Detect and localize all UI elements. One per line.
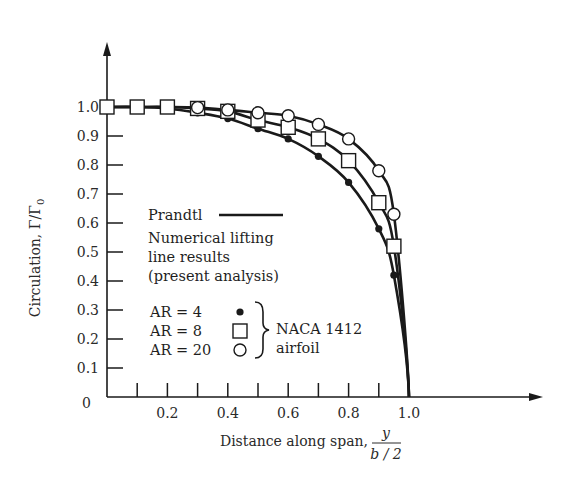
x-tick-label: 0.6 — [277, 405, 299, 421]
x-tick-label: 0.2 — [156, 405, 178, 421]
y-tick-label: 0.8 — [77, 157, 99, 173]
y-axis-arrow-icon — [103, 42, 111, 56]
x-axis-title: Distance along span, — [220, 433, 368, 449]
legend-numerical-text: (present analysis) — [148, 268, 279, 284]
open-circle-marker — [192, 102, 204, 114]
open-square-marker — [130, 100, 144, 114]
open-square-marker — [100, 100, 114, 114]
y-tick-label: 0.6 — [77, 215, 99, 231]
legend-airfoil-text: airfoil — [276, 340, 320, 356]
open-circle-marker — [388, 208, 400, 220]
axis-ticks: 0.20.40.60.81.000.10.20.30.40.50.60.70.8… — [77, 99, 420, 421]
y-tick-label: 0.9 — [77, 128, 99, 144]
open-square-marker — [311, 132, 325, 146]
y-tick-label: 1.0 — [77, 99, 99, 115]
x-axis-title-numerator: y — [381, 425, 391, 441]
open-square-marker — [160, 100, 174, 114]
open-circle-marker — [312, 118, 324, 130]
open-square-marker — [342, 154, 356, 168]
circulation-chart: 0.20.40.60.81.000.10.20.30.40.50.60.70.8… — [0, 0, 573, 485]
legend-entry-label: AR = 8 — [149, 323, 202, 339]
legend-brace-icon — [255, 302, 269, 358]
open-square-marker — [372, 196, 386, 210]
x-tick-label: 0.8 — [337, 405, 359, 421]
y-tick-label: 0.2 — [77, 331, 99, 347]
open-square-marker — [281, 120, 295, 134]
open-square-marker — [387, 239, 401, 253]
filled-circle-marker — [390, 272, 397, 279]
legend-open-square-icon — [233, 324, 247, 338]
y-axis-title: Circulation, Γ/Γ0 — [27, 199, 46, 318]
open-circle-marker — [282, 110, 294, 122]
legend-open-circle-icon — [234, 344, 246, 356]
filled-circle-marker — [375, 225, 382, 232]
x-tick-label: 0.4 — [217, 405, 239, 421]
legend-numerical-text: line results — [148, 249, 230, 265]
open-circle-marker — [373, 165, 385, 177]
legend: PrandtlNumerical liftingline results(pre… — [148, 207, 362, 358]
open-circle-marker — [252, 107, 264, 119]
legend-prandtl-label: Prandtl — [148, 207, 203, 223]
filled-circle-marker — [345, 179, 352, 186]
open-circle-marker — [343, 133, 355, 145]
x-axis-title-denominator: b / 2 — [370, 446, 402, 462]
y-tick-label: 0 — [82, 395, 91, 411]
legend-numerical-text: Numerical lifting — [148, 230, 274, 246]
x-tick-label: 1.0 — [398, 405, 420, 421]
y-tick-label: 0.3 — [77, 302, 99, 318]
legend-filled-circle-icon — [236, 308, 243, 315]
y-tick-label: 0.1 — [77, 360, 99, 376]
legend-airfoil-text: NACA 1412 — [276, 321, 362, 337]
open-circle-marker — [222, 104, 234, 116]
x-axis-arrow-icon — [529, 393, 543, 401]
data-series — [100, 100, 409, 397]
markers-ar20 — [192, 102, 400, 221]
filled-circle-marker — [315, 153, 322, 160]
y-tick-label: 0.5 — [77, 244, 99, 260]
legend-entry-label: AR = 4 — [149, 304, 202, 320]
y-tick-label: 0.7 — [77, 186, 99, 202]
filled-circle-marker — [285, 135, 292, 142]
y-tick-label: 0.4 — [77, 273, 99, 289]
legend-entry-label: AR = 20 — [149, 342, 211, 358]
